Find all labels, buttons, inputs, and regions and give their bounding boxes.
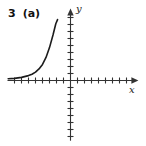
y-axis-label: y bbox=[76, 4, 82, 14]
exponential-curve bbox=[8, 20, 57, 79]
y-axis-arrow-icon bbox=[67, 8, 73, 15]
x-axis-label: x bbox=[129, 85, 135, 95]
graph-figure: 3(a) y x bbox=[0, 0, 146, 146]
x-axis-arrow-icon bbox=[131, 77, 138, 83]
graph-canvas bbox=[0, 0, 146, 146]
